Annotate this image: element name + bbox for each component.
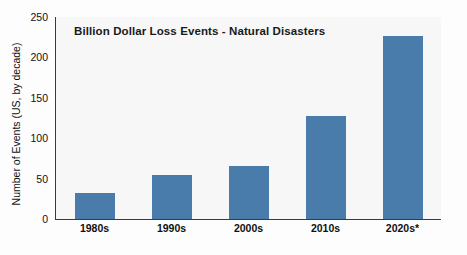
- plot-inner: Billion Dollar Loss Events - Natural Dis…: [56, 17, 441, 219]
- bar-1990s[interactable]: [152, 175, 192, 219]
- bar-2000s[interactable]: [229, 166, 269, 219]
- y-axis-tick-250: 250: [30, 11, 48, 23]
- y-axis-tick-0: 0: [42, 213, 48, 225]
- x-axis-tick-label: 1980s: [75, 222, 115, 234]
- y-axis-tick-200: 200: [30, 51, 48, 63]
- bar-1980s[interactable]: [75, 193, 115, 219]
- y-axis-tick-labels: 050100150200250: [0, 0, 53, 255]
- plot-area: Billion Dollar Loss Events - Natural Dis…: [55, 17, 441, 220]
- bar-2010s[interactable]: [306, 116, 346, 219]
- bar-group-2000s: 2000s: [229, 17, 269, 219]
- x-axis-tick-label: 1990s: [152, 222, 192, 234]
- bar-2020s[interactable]: [383, 36, 423, 219]
- bar-group-2020s: 2020s*: [383, 17, 423, 219]
- bar-group-2010s: 2010s: [306, 17, 346, 219]
- x-axis-tick-label: 2020s*: [383, 222, 423, 234]
- bar-group-1980s: 1980s: [75, 17, 115, 219]
- bar-group-1990s: 1990s: [152, 17, 192, 219]
- x-axis-tick-label: 2010s: [306, 222, 346, 234]
- y-axis-tick-100: 100: [30, 132, 48, 144]
- x-axis-tick-label: 2000s: [229, 222, 269, 234]
- y-axis-tick-50: 50: [36, 173, 48, 185]
- y-axis-tick-150: 150: [30, 92, 48, 104]
- bar-chart-figure: Number of Events (US, by decade) 0501001…: [0, 0, 467, 255]
